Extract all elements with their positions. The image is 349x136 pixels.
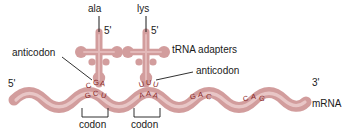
trna-mrna-diagram: ala lys 5' 5' tRNA adapters anticodon an…: [0, 0, 349, 136]
codon-label-left: codon: [79, 120, 106, 130]
diagram-canvas: [0, 0, 349, 136]
trna-right-5prime-label: 5': [151, 26, 158, 36]
trna-right: [122, 16, 170, 84]
mrna-label: mRNA: [312, 99, 341, 109]
trna-left-5prime-label: 5': [104, 26, 111, 36]
anticodon-label-right: anticodon: [196, 66, 239, 76]
mrna-strand: [14, 93, 306, 108]
mrna-5prime-label: 5': [8, 79, 15, 89]
amino-acid-label-right: lys: [137, 4, 149, 14]
trna-left: [75, 16, 123, 84]
trna-left-lower-bump-right: [102, 58, 109, 65]
anticodon-left-leader: [62, 57, 92, 80]
amino-acid-label-left: ala: [88, 4, 101, 14]
trna-adapters-label: tRNA adapters: [172, 45, 237, 55]
codon-left-bracket: [82, 108, 108, 117]
codon-label-right: codon: [131, 120, 158, 130]
codon-right-bracket: [134, 108, 160, 117]
anticodon-label-left: anticodon: [12, 48, 55, 58]
anticodon-right-leader: [156, 72, 193, 80]
mrna-3prime-label: 3': [312, 78, 319, 88]
trna-right-lower-bump-right: [149, 58, 156, 65]
trna-right-lower-bump-left: [135, 58, 142, 65]
trna-left-lower-bump-left: [88, 58, 95, 65]
